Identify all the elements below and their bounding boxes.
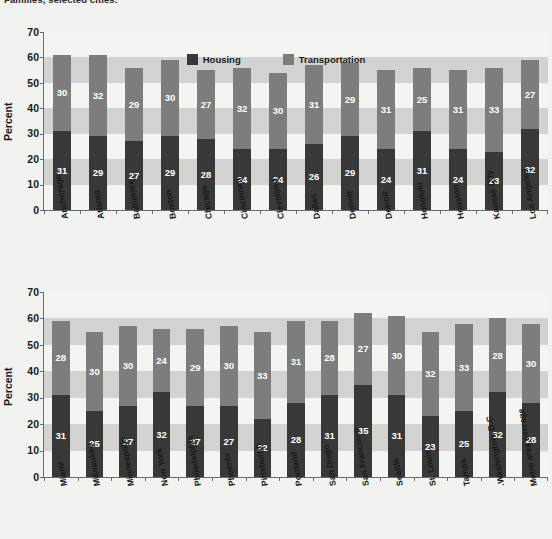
- bar-column[interactable]: 3031: [388, 292, 405, 477]
- bar-segment-transportation: 25: [413, 68, 432, 132]
- y-tick-label: 70: [27, 286, 44, 297]
- x-axis-label-cell: Houston: [440, 215, 476, 271]
- x-axis-label-cell: St. Louis: [414, 482, 448, 538]
- bar-segment-transportation: 31: [377, 70, 396, 149]
- x-axis-label-cell: Cleveland: [260, 215, 296, 271]
- legend-label: Housing: [203, 55, 241, 65]
- x-axis-labels-1: AnchorageAtlantaBaltimoreBostonChicagoCi…: [44, 215, 548, 271]
- y-tick-label: 70: [27, 26, 44, 37]
- bar-column[interactable]: 3027: [220, 292, 237, 477]
- x-axis-label-cell: Kansas City: [476, 215, 512, 271]
- x-axis-label-cell: Tampa: [447, 482, 481, 538]
- x-axis-label-cell: Pittsburgh: [246, 482, 280, 538]
- x-axis-label-cell: Honolulu: [404, 215, 440, 271]
- bar-segment-transportation: 29: [186, 329, 203, 406]
- y-tick-label: 40: [27, 366, 44, 377]
- bar-segment-transportation: 30: [269, 73, 288, 149]
- x-axis-label-cell: Seattle: [380, 482, 414, 538]
- y-tick-label: 30: [27, 392, 44, 403]
- bar-segment-transportation: 29: [341, 63, 360, 137]
- bar-column[interactable]: 3128: [287, 292, 304, 477]
- bar-segment-transportation: 31: [287, 321, 304, 403]
- legend-item-housing: Housing: [187, 54, 241, 65]
- y-tick-label: 0: [33, 204, 44, 215]
- x-axis-labels-2: MiamiMilwaukeeMinneapolisNew YorkPhilade…: [44, 482, 548, 538]
- bar-segment-transportation: 28: [321, 321, 338, 395]
- y-tick-label: 40: [27, 103, 44, 114]
- page-title: Families, selected cities.: [4, 0, 118, 6]
- x-axis-label-cell: Phoenix: [212, 482, 246, 538]
- bar-segment-transportation: 33: [254, 332, 271, 419]
- bar-segment-transportation: 27: [197, 70, 216, 139]
- legend-item-transportation: Transportation: [283, 54, 366, 65]
- bar-segment-transportation: 33: [485, 68, 504, 152]
- bar-segment-transportation: 30: [119, 326, 136, 405]
- legend-swatch-icon: [187, 54, 198, 65]
- chart-legend: HousingTransportation: [0, 54, 552, 65]
- y-tick-label: 50: [27, 77, 44, 88]
- bar-segment-transportation: 31: [449, 70, 468, 149]
- x-axis-label-cell: Boston: [152, 215, 188, 271]
- bar-segment-transportation: 28: [52, 321, 69, 395]
- bar-segment-transportation: 28: [489, 318, 506, 392]
- x-axis-label-cell: Philadelphia: [178, 482, 212, 538]
- bar-segment-transportation: 30: [86, 332, 103, 411]
- x-axis-label-cell: Cincinnati: [224, 215, 260, 271]
- bar-segment-transportation: 30: [220, 326, 237, 405]
- bar-segment-transportation: 33: [455, 324, 472, 411]
- x-axis-label-cell: Baltimore: [116, 215, 152, 271]
- y-tick-label: 30: [27, 128, 44, 139]
- y-tick-label: 50: [27, 339, 44, 350]
- x-axis-label-cell: Los Angeles: [512, 215, 548, 271]
- legend-swatch-icon: [283, 54, 294, 65]
- chart-panel-1: Percent 010203040506070 3031322929273029…: [0, 22, 552, 267]
- y-tick-label: 20: [27, 418, 44, 429]
- y-tick-label: 10: [27, 179, 44, 190]
- x-axis-label-cell: Washington, D.C.: [481, 482, 515, 538]
- x-axis-label-cell: San Francisco: [346, 482, 380, 538]
- x-axis-label-cell: Denver: [332, 215, 368, 271]
- bar-segment-transportation: 31: [305, 65, 324, 144]
- plot-area-2: 010203040506070 283130253027243229273027…: [44, 292, 548, 477]
- x-axis-label-cell: Detroit: [368, 215, 404, 271]
- y-tick-label: 60: [27, 313, 44, 324]
- bar-segment-transportation: 30: [161, 60, 180, 136]
- bar-segment-transportation: 30: [388, 316, 405, 395]
- x-axis-label-cell: Milwaukee: [78, 482, 112, 538]
- x-axis-label-cell: Metro area average: [514, 482, 548, 538]
- bar-column[interactable]: 3325: [455, 292, 472, 477]
- x-axis-label-cell: Minneapolis: [111, 482, 145, 538]
- x-axis-label-cell: Miami: [44, 482, 78, 538]
- x-axis-label-cell: Portland: [279, 482, 313, 538]
- y-axis-ticks-2: 010203040506070: [2, 292, 44, 477]
- y-tick-label: 20: [27, 153, 44, 164]
- bar-segment-transportation: 32: [89, 55, 108, 136]
- bar-segment-transportation: 32: [422, 332, 439, 417]
- bar-segment-transportation: 30: [53, 55, 72, 131]
- x-axis-label-cell: Anchorage: [44, 215, 80, 271]
- x-axis-label-cell: Dallas: [296, 215, 332, 271]
- y-tick-label: 10: [27, 445, 44, 456]
- x-axis-ticks-1: [44, 210, 548, 214]
- bar-segment-transportation: 27: [521, 60, 540, 129]
- bar-segment-transportation: 24: [153, 329, 170, 392]
- bar-column[interactable]: 2831: [52, 292, 69, 477]
- x-axis-label-cell: Chicago: [188, 215, 224, 271]
- x-axis-label-cell: Atlanta: [80, 215, 116, 271]
- x-axis-label-cell: New York: [145, 482, 179, 538]
- bar-segment-transportation: 30: [522, 324, 539, 403]
- chart-panel-2: Percent 010203040506070 2831302530272432…: [0, 282, 552, 537]
- bar-segment-transportation: 27: [354, 313, 371, 384]
- legend-label: Transportation: [299, 55, 366, 65]
- y-tick-label: 0: [33, 471, 44, 482]
- bar-segment-transportation: 32: [233, 68, 252, 149]
- x-axis-label-cell: San Diego: [313, 482, 347, 538]
- bar-segment-transportation: 29: [125, 68, 144, 142]
- chart-page: Families, selected cities. Percent 01020…: [0, 0, 552, 539]
